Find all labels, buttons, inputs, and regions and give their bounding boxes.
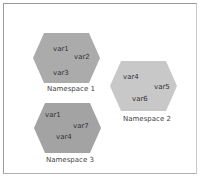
namespace-2-var: var5 — [154, 83, 170, 91]
namespace-3-label: Namespace 3 — [46, 156, 94, 164]
namespace-2-var: var4 — [123, 73, 139, 81]
namespace-3-var: var4 — [56, 133, 72, 141]
namespace-3-var: var7 — [73, 122, 89, 130]
namespace-3: var1 var7 var4 Namespace 3 — [34, 103, 102, 163]
namespace-1-var: var3 — [53, 69, 69, 77]
namespace-3-var: var1 — [45, 111, 61, 119]
namespace-2-var: var6 — [132, 95, 148, 103]
namespace-1-label: Namespace 1 — [47, 85, 95, 93]
namespace-1-var: var2 — [74, 53, 90, 61]
namespace-2-label: Namespace 2 — [123, 115, 171, 123]
namespace-2: var4 var5 var6 Namespace 2 — [110, 61, 178, 121]
namespace-1-var: var1 — [53, 45, 69, 53]
namespace-1: var1 var2 var3 Namespace 1 — [33, 33, 101, 93]
